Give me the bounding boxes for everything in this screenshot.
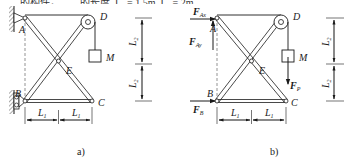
dim-v2-label: L2 [320, 79, 332, 89]
caption-a: a) [77, 146, 85, 158]
dim-h2-label: L1 [264, 107, 274, 119]
panel-b: FAx FAy FB FP A B C D E M L2 L2 [188, 6, 344, 158]
label-d: D [99, 11, 108, 22]
joint-b [23, 99, 27, 103]
label-e: E [65, 65, 72, 76]
dim-h1-label: L1 [230, 107, 240, 119]
mechanics-diagram: A B C D E M L2 L2 [0, 0, 344, 168]
label-fax: FAx [192, 6, 206, 18]
pulley-d-icon [81, 15, 95, 29]
label-b: B [15, 88, 21, 99]
joint-e [250, 59, 254, 63]
label-fp: FP [289, 80, 301, 92]
joint-a [215, 16, 219, 20]
dim-v1-label: L2 [320, 37, 332, 47]
dim-v2-label: L2 [127, 79, 139, 89]
label-d: D [292, 11, 301, 22]
bar-bc [217, 100, 286, 103]
label-a: A [18, 24, 26, 35]
label-fb: FB [192, 104, 204, 116]
label-c: C [98, 97, 105, 108]
joint-a [23, 16, 27, 20]
joint-e [57, 59, 61, 63]
wall-support-icon [9, 6, 14, 114]
panel-a: A B C D E M L2 L2 [9, 6, 152, 158]
joint-c [90, 99, 94, 103]
label-b: B [207, 88, 213, 99]
label-a: A [209, 23, 217, 34]
dim-h1-label: L1 [37, 107, 47, 119]
bar-bc [25, 100, 92, 103]
label-e: E [258, 65, 265, 76]
label-mass: M [298, 52, 308, 63]
dim-v1-label: L2 [127, 37, 139, 47]
label-fay: FAy [188, 36, 202, 48]
label-c: C [291, 97, 298, 108]
mass-block [89, 50, 101, 62]
horizontal-dimension [25, 107, 92, 124]
pulley-d-icon [274, 15, 288, 29]
caption-b: b) [270, 146, 278, 158]
joint-b [215, 99, 219, 103]
joint-c [284, 99, 288, 103]
horizontal-dimension [217, 107, 286, 124]
dim-h2-label: L1 [71, 107, 81, 119]
label-mass: M [105, 52, 115, 63]
